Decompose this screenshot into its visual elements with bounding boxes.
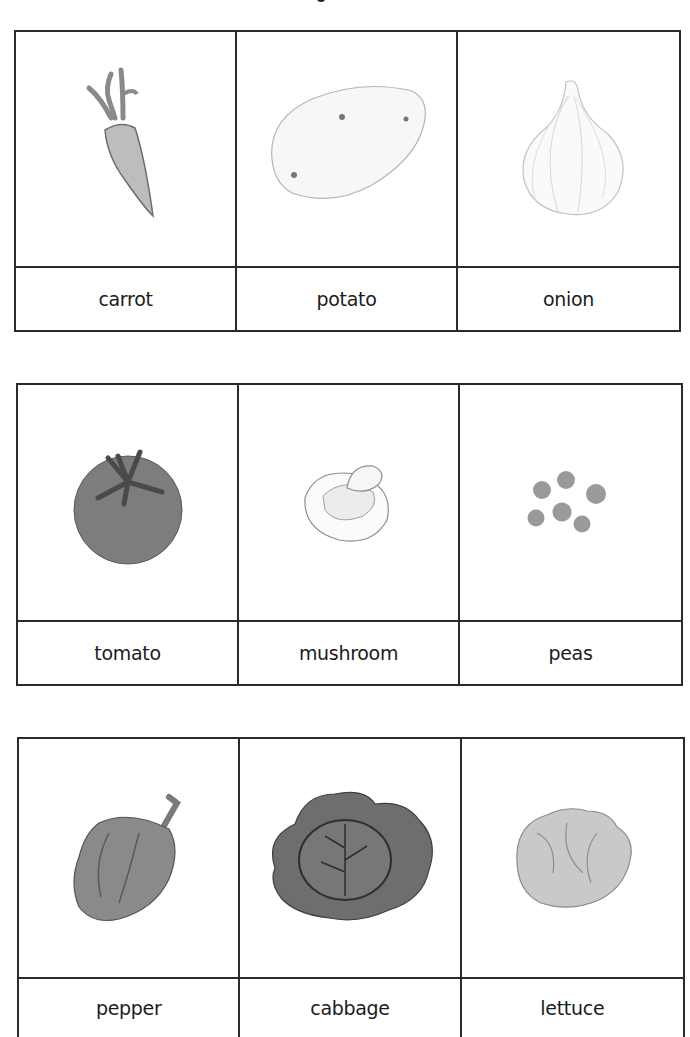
card-label: cabbage [240, 979, 459, 1037]
card-label: mushroom [239, 622, 458, 684]
vegetable-card-row-3: pepper cabbage lettuce [17, 737, 685, 1037]
card-carrot: carrot [16, 32, 237, 330]
card-label: carrot [16, 268, 235, 330]
mushroom-icon [239, 385, 458, 622]
card-mushroom: mushroom [239, 385, 460, 684]
pepper-icon [19, 739, 238, 979]
card-label: onion [458, 268, 679, 330]
card-label: peas [460, 622, 681, 684]
card-potato: potato [237, 32, 458, 330]
potato-icon [237, 32, 456, 268]
vegetable-card-row-1: carrot potato onion [14, 30, 681, 332]
tomato-icon [18, 385, 237, 622]
card-onion: onion [458, 32, 679, 330]
card-label: lettuce [462, 979, 683, 1037]
onion-icon [458, 32, 679, 268]
card-cabbage: cabbage [240, 739, 461, 1037]
cabbage-icon [240, 739, 459, 979]
card-label: pepper [19, 979, 238, 1037]
carrot-icon [16, 32, 235, 268]
peas-icon [460, 385, 681, 622]
card-label: tomato [18, 622, 237, 684]
page-number-fragment [317, 0, 325, 2]
vegetable-card-row-2: tomato mushroom peas [16, 383, 683, 686]
lettuce-icon [462, 739, 683, 979]
card-peas: peas [460, 385, 681, 684]
card-label: potato [237, 268, 456, 330]
card-pepper: pepper [19, 739, 240, 1037]
card-tomato: tomato [18, 385, 239, 684]
card-lettuce: lettuce [462, 739, 683, 1037]
